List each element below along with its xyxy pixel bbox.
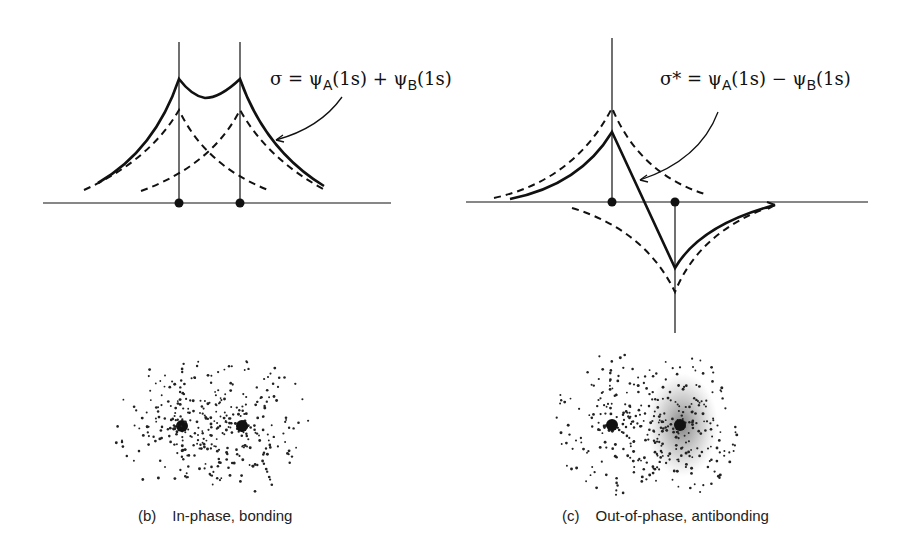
nucleus-b-dot bbox=[236, 199, 245, 208]
antibonding-equation-label: σ* = ψA(1s) − ψB(1s) bbox=[660, 68, 851, 93]
bonding-density-dots bbox=[115, 360, 309, 492]
bonding-equation-label: σ = ψA(1s) + ψB(1s) bbox=[270, 68, 452, 93]
caption-text: In-phase, bonding bbox=[172, 507, 292, 524]
antibonding-density-dots bbox=[556, 354, 739, 496]
bonding-label-arrow bbox=[276, 97, 342, 140]
sigma-star-curve bbox=[510, 132, 775, 268]
antibonding-label-arrow bbox=[640, 112, 718, 180]
nucleus-a-dot bbox=[175, 199, 184, 208]
psi-a-dashed-curve bbox=[494, 108, 708, 198]
caption-tag: (b) bbox=[138, 507, 156, 524]
caption-tag: (c) bbox=[562, 507, 580, 524]
minus-psi-b-dashed-curve bbox=[572, 205, 775, 292]
bonding-caption: (b)In-phase, bonding bbox=[138, 507, 292, 524]
psi-b-dashed-curve bbox=[141, 110, 327, 191]
nucleus-a-dot bbox=[608, 198, 617, 207]
bonding-plot bbox=[43, 42, 391, 208]
caption-text: Out-of-phase, antibonding bbox=[596, 507, 769, 524]
nucleus-b-dot bbox=[671, 198, 680, 207]
sigma-bonding-curve bbox=[98, 79, 324, 186]
antibonding-caption: (c)Out-of-phase, antibonding bbox=[562, 507, 769, 524]
